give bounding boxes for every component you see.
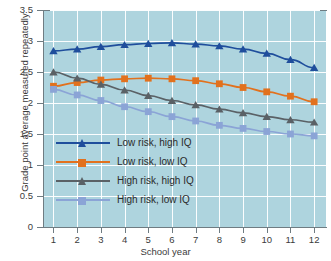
legend-swatch bbox=[56, 156, 110, 168]
y-axis-label: Grade point average measured repeatedly bbox=[19, 3, 30, 203]
triangle-marker-icon bbox=[78, 139, 86, 147]
legend-swatch bbox=[56, 137, 110, 149]
legend-item-1[interactable]: Low risk, high IQ bbox=[56, 133, 194, 152]
data-point-marker bbox=[240, 84, 247, 91]
data-point-marker bbox=[121, 75, 128, 82]
legend: Low risk, high IQLow risk, low IQHigh ri… bbox=[56, 133, 194, 209]
legend-label: Low risk, high IQ bbox=[117, 137, 191, 148]
series-line bbox=[53, 89, 314, 136]
data-point-marker bbox=[169, 113, 176, 120]
data-point-marker bbox=[192, 77, 199, 84]
grade-point-average-line-chart: 00.511.522.533.5 123456789101112 Grade p… bbox=[0, 0, 331, 261]
legend-label: Low risk, low IQ bbox=[117, 156, 188, 167]
square-marker-icon bbox=[78, 197, 86, 205]
legend-swatch bbox=[56, 175, 110, 187]
x-axis-label: School year bbox=[0, 246, 331, 257]
series-line bbox=[53, 43, 314, 68]
data-point-marker bbox=[263, 88, 270, 95]
series-3 bbox=[49, 68, 318, 125]
series-2 bbox=[50, 75, 317, 105]
legend-label: High risk, high IQ bbox=[117, 175, 194, 186]
data-point-marker bbox=[192, 118, 199, 125]
data-point-marker bbox=[97, 97, 104, 104]
data-point-marker bbox=[216, 122, 223, 129]
series-1 bbox=[49, 39, 318, 71]
series-layer bbox=[0, 0, 331, 261]
legend-swatch bbox=[56, 194, 110, 206]
data-point-marker bbox=[121, 103, 128, 110]
data-point-marker bbox=[240, 125, 247, 132]
data-point-marker bbox=[311, 98, 318, 105]
series-line bbox=[53, 78, 314, 102]
square-marker-icon bbox=[78, 159, 86, 167]
data-point-marker bbox=[50, 86, 57, 93]
data-point-marker bbox=[216, 80, 223, 87]
data-point-marker bbox=[169, 75, 176, 82]
triangle-marker-icon bbox=[78, 177, 86, 185]
data-point-marker bbox=[311, 132, 318, 139]
data-point-marker bbox=[287, 131, 294, 138]
data-point-marker bbox=[287, 93, 294, 100]
legend-item-4[interactable]: High risk, low IQ bbox=[56, 190, 194, 209]
data-point-marker bbox=[145, 108, 152, 115]
legend-label: High risk, low IQ bbox=[117, 194, 190, 205]
data-point-marker bbox=[74, 92, 81, 99]
legend-item-3[interactable]: High risk, high IQ bbox=[56, 171, 194, 190]
legend-item-2[interactable]: Low risk, low IQ bbox=[56, 152, 194, 171]
data-point-marker bbox=[263, 128, 270, 135]
data-point-marker bbox=[145, 75, 152, 82]
